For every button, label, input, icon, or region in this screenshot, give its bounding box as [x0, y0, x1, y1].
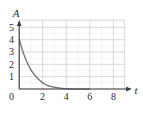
x-tick-label-8: 8 — [111, 91, 116, 102]
grid-major — [19, 20, 124, 89]
y-tick-label-4: 4 — [9, 34, 14, 45]
y-tick-label-3: 3 — [9, 46, 14, 57]
exponential-decay-chart: A t 5 4 3 2 1 0 2 4 6 8 — [0, 0, 143, 115]
x-axis-title: t — [134, 84, 138, 96]
y-tick-label-5: 5 — [9, 22, 14, 33]
x-tick-label-6: 6 — [87, 91, 92, 102]
x-tick-label-2: 2 — [40, 91, 45, 102]
y-tick-label-2: 2 — [9, 59, 14, 70]
y-axis-title: A — [12, 7, 20, 19]
y-tick-label-0: 0 — [9, 91, 14, 102]
y-tick-label-1: 1 — [9, 71, 14, 82]
plot-area: A t 5 4 3 2 1 0 2 4 6 8 — [0, 0, 143, 115]
grid-minor — [19, 20, 124, 89]
x-tick-label-4: 4 — [64, 91, 69, 102]
